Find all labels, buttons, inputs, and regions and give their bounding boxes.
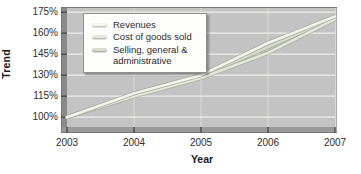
- y-tick-label: 160%: [26, 27, 58, 38]
- trend-line-chart: Trend Year 100%115%130%145%160%175%20032…: [0, 0, 361, 174]
- y-tick-label: 175%: [26, 6, 58, 17]
- x-tick-label: 2003: [46, 137, 88, 148]
- x-tick-label: 2005: [180, 137, 222, 148]
- plot-left-bevel: [62, 8, 67, 132]
- legend-item: Revenues: [90, 19, 200, 30]
- plot-bottom-bevel: [62, 127, 336, 132]
- legend-key-swatch: [92, 48, 107, 52]
- y-tick-label: 145%: [26, 48, 58, 59]
- legend-item-label: Selling, general & administrative: [113, 44, 200, 67]
- x-tick-label: 2006: [247, 137, 289, 148]
- y-tick-label: 130%: [26, 69, 58, 80]
- legend-box: RevenuesCost of goods soldSelling, gener…: [83, 13, 207, 73]
- y-axis-title: Trend: [0, 44, 12, 84]
- legend-item-label: Cost of goods sold: [113, 31, 192, 42]
- x-tick-label: 2007: [314, 137, 356, 148]
- y-tick-label: 115%: [26, 90, 58, 101]
- x-tick-label: 2004: [113, 137, 155, 148]
- y-tick-label: 100%: [26, 111, 58, 122]
- x-axis-title: Year: [181, 153, 223, 165]
- legend-key-swatch: [92, 23, 107, 27]
- legend-key-swatch: [92, 35, 107, 39]
- legend-item-label: Revenues: [113, 19, 156, 30]
- legend-item: Cost of goods sold: [90, 31, 200, 42]
- legend-item: Selling, general & administrative: [90, 44, 200, 67]
- plot-right-edge: [335, 8, 337, 132]
